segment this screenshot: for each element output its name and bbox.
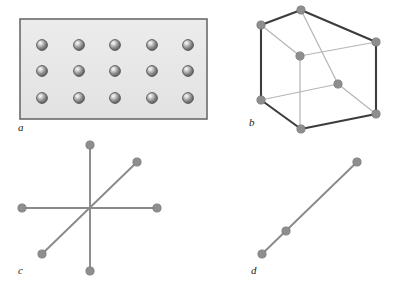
cube-edge-light <box>301 10 338 84</box>
cube-edge-dark <box>301 114 376 129</box>
panel-c-star-axes <box>0 140 200 293</box>
figure-root: a b c d <box>0 0 395 293</box>
panel-label-a: a <box>18 122 24 133</box>
sphere-node <box>183 93 194 104</box>
chain-line <box>262 162 357 254</box>
panel-label-d: d <box>251 265 257 276</box>
sphere-node <box>183 66 194 77</box>
cube-vertex <box>257 21 265 29</box>
sphere-node <box>147 93 158 104</box>
sphere-node <box>37 40 48 51</box>
chain-lines <box>262 162 357 254</box>
sphere-node <box>183 40 194 51</box>
cube-vertex <box>296 52 304 60</box>
chain-node <box>258 250 266 258</box>
panel-label-c: c <box>18 265 23 276</box>
cube-edge-dark <box>301 10 376 42</box>
sphere-node <box>37 93 48 104</box>
star-node <box>38 250 46 258</box>
sphere-node <box>110 40 121 51</box>
sphere-node <box>74 40 85 51</box>
sphere-node <box>147 66 158 77</box>
star-node <box>133 158 141 166</box>
sphere-node <box>110 93 121 104</box>
cube-edge-dark <box>261 100 301 129</box>
star-node <box>86 141 94 149</box>
sphere-node <box>37 66 48 77</box>
panel-a-plate-lattice <box>0 0 225 140</box>
panel-d-linear-chain <box>200 140 395 293</box>
cube-vertex <box>257 96 265 104</box>
cube-vertex <box>372 38 380 46</box>
cube-vertex <box>372 110 380 118</box>
cube-vertex <box>334 80 342 88</box>
star-node <box>18 204 26 212</box>
star-node <box>153 204 161 212</box>
sphere-node <box>147 40 158 51</box>
star-node <box>86 267 94 275</box>
panel-label-b: b <box>249 117 255 128</box>
sphere-node <box>74 93 85 104</box>
chain-node <box>282 227 290 235</box>
cube-edges-hidden <box>261 10 376 128</box>
cube-edge-light <box>338 84 376 114</box>
cube-edge-dark <box>261 10 301 25</box>
sphere-node <box>74 66 85 77</box>
cube-edge-light <box>300 42 376 56</box>
sphere-node <box>110 66 121 77</box>
cube-vertex <box>297 6 305 14</box>
cube-vertex <box>297 125 305 133</box>
cube-edges-visible <box>261 10 376 129</box>
chain-node <box>353 158 361 166</box>
cube-vertices <box>257 6 380 133</box>
cube-edge-light <box>261 25 300 56</box>
